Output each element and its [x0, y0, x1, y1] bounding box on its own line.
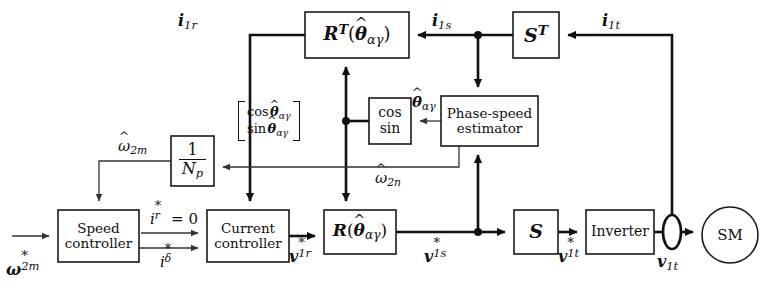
inverse-pole-pairs-label-wrap: 1 Np [171, 136, 214, 186]
signal-label-v1t-ref: v*1t [558, 246, 577, 265]
omega2m-hat-subscript: 2m [130, 144, 147, 157]
matrix-row1-function: cos [247, 104, 269, 119]
rt-theta-subscript: αγ [367, 32, 384, 47]
matrix-bracket-left [238, 101, 245, 141]
rotation-transform-inverse-label-wrap: RT(^θαγ) [305, 12, 409, 58]
v1s-ref-symbol: v [424, 247, 433, 266]
rt-paren-close: ) [384, 23, 391, 44]
signal-label-omega-2m-hat: ^ω2m [118, 139, 147, 157]
signal-label-i-delta-ref: i*δ [160, 252, 174, 270]
current-controller-line-1: Current [214, 221, 281, 236]
signal-label-i1r: i1r [178, 13, 197, 32]
signal-label-v1r-ref: v*1r [289, 246, 308, 265]
signal-label-v1t: v1t [657, 254, 678, 273]
speed-controller-line-1: Speed [65, 221, 132, 236]
junction-dot-v1s [474, 228, 482, 236]
rt-theta-hat-mark: ^ [355, 15, 368, 32]
r-theta-subscript: αγ [365, 228, 381, 242]
wire-omega2m-to-speed-controller [99, 161, 171, 201]
rt-base-symbol: R [323, 23, 338, 44]
v1t-ref-symbol: v [558, 247, 567, 266]
matrix-bracket-right [293, 101, 300, 141]
theta-hat-mark: ^ [412, 87, 423, 100]
i1s-subscript: 1s [438, 18, 451, 32]
signal-label-ir-ref-zero: i*r= 0 [150, 209, 198, 227]
omega2n-hat-subscript: 2n [387, 176, 401, 189]
junction-dot-i1s [474, 31, 482, 39]
signal-label-i1t: i1t [602, 13, 620, 32]
inverter-label-wrap: Inverter [586, 210, 654, 254]
np-numerator: 1 [179, 141, 206, 159]
omega2n-hat-mark: ^ [376, 163, 387, 176]
speed-controller-line-2: controller [65, 236, 132, 251]
matrix-row2-function: sin [247, 121, 266, 136]
omega2m-ref-symbol: ω [6, 260, 21, 279]
st-base-symbol: S [524, 24, 538, 46]
speed-controller-label-wrap: Speed controller [58, 210, 139, 262]
rt-transpose-superscript: T [338, 22, 348, 37]
r-theta-hat-mark: ^ [353, 212, 365, 228]
current-controller-label-wrap: Current controller [207, 210, 289, 262]
cos-sin-label-wrap: cos sin [369, 98, 411, 144]
phase-speed-estimator-label-wrap: Phase-speed estimator [441, 96, 538, 146]
matrix-row1-hat: ^ [270, 98, 279, 111]
signal-label-omega-2n-hat: ^ω2n [375, 171, 401, 189]
signal-label-omega-2m-ref: ω*2m [6, 259, 31, 278]
v1t-ref-subscript: 1t [567, 248, 579, 260]
wire-i1t-feedback [568, 35, 672, 215]
theta-hat-subscript: αγ [422, 100, 436, 113]
cos-label: cos [378, 105, 401, 121]
st-transpose-superscript: T [538, 22, 548, 38]
omega2m-hat-mark: ^ [119, 131, 130, 144]
i-delta-ref-subscript: δ [165, 254, 172, 265]
matrix-row1-subscript: αγ [279, 110, 291, 121]
matrix-row2-hat: ^ [267, 114, 276, 127]
v1t-symbol: v [657, 252, 666, 271]
np-denominator-base: N [182, 159, 196, 178]
inverter-label: Inverter [591, 224, 649, 240]
estimator-line-1: Phase-speed [447, 106, 533, 121]
v1r-ref-symbol: v [289, 247, 298, 266]
cos-sin-column-matrix: cos ^θαγ sin ^θαγ [238, 101, 300, 141]
s-base-symbol: S [529, 221, 543, 242]
rotation-transform-label-wrap: R(^θαγ) [324, 210, 396, 254]
v1r-ref-subscript: 1r [298, 248, 311, 260]
r-base-symbol: R [333, 220, 347, 240]
i1t-subscript: 1t [608, 18, 620, 32]
wire-omega2n-to-inverse-np [223, 146, 459, 167]
v1s-ref-subscript: 1s [433, 248, 446, 260]
estimator-line-2: estimator [447, 121, 533, 136]
s-transform-transpose-label-wrap: ST [513, 12, 559, 58]
sm-label: SM [717, 226, 743, 244]
ir-ref-equals-zero: = 0 [171, 210, 198, 228]
current-controller-line-2: controller [214, 236, 281, 251]
ir-ref-subscript: r [155, 211, 160, 222]
signal-label-theta-hat: ^θαγ [412, 95, 436, 113]
s-transform-label-wrap: S [514, 210, 558, 254]
v1t-subscript: 1t [666, 259, 678, 273]
block-diagram-figure: RT(^θαγ) ST cos sin Phase-speed estimato… [0, 0, 784, 292]
junction-dot-cossin-output [342, 117, 350, 125]
r-paren-close: ) [381, 220, 388, 240]
i1r-subscript: 1r [184, 18, 197, 32]
np-denominator-subscript: p [196, 167, 203, 181]
matrix-row2-subscript: αγ [276, 127, 288, 138]
signal-label-i1s: i1s [432, 13, 451, 32]
sin-label: sin [378, 121, 401, 137]
synchronous-machine-label-wrap: SM [702, 207, 758, 263]
signal-label-v1s-ref: v*1s [424, 246, 443, 265]
omega2m-ref-subscript: 2m [21, 261, 39, 273]
current-sensor-ellipse [663, 215, 681, 249]
